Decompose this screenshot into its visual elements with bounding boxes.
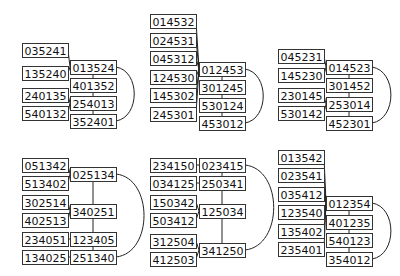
node-label: 402513	[25, 215, 67, 228]
permutation-graph-1: 0352411352402401355401320135244013522540…	[23, 44, 135, 129]
node-label: 012453	[202, 64, 244, 77]
node-label: 513402	[25, 178, 67, 191]
node-label: 250341	[202, 178, 244, 191]
node-label: 012354	[329, 198, 371, 211]
node-label: 014523	[329, 62, 371, 75]
node-label: 150342	[153, 197, 195, 210]
node-label: 014532	[153, 16, 195, 29]
node-label: 540132	[25, 108, 67, 121]
node-label: 145230	[281, 70, 323, 83]
arc-edge	[245, 165, 274, 250]
node-label: 135402	[281, 226, 323, 239]
node-label: 312504	[153, 236, 195, 249]
node-label: 145302	[153, 90, 195, 103]
node-label: 254013	[73, 98, 115, 111]
node-label: 035412	[281, 189, 323, 202]
node-label: 023415	[202, 160, 244, 173]
node-label: 401235	[329, 217, 371, 230]
arc-edge	[372, 203, 391, 259]
node-label: 234051	[25, 234, 67, 247]
permutation-graph-5: 2341500341251503425034123125044125030234…	[151, 159, 274, 267]
node-label: 452301	[329, 118, 371, 131]
node-label: 035241	[25, 45, 67, 58]
node-label: 230145	[281, 90, 323, 103]
node-label: 530124	[202, 100, 244, 113]
node-label: 540123	[329, 235, 371, 248]
node-label: 401352	[73, 80, 115, 93]
node-label: 503412	[153, 215, 195, 228]
node-label: 134025	[25, 252, 67, 265]
node-label: 034125	[153, 178, 195, 191]
node-label: 251340	[73, 252, 115, 265]
node-label: 123540	[281, 207, 323, 220]
graph-figure: 0352411352402401355401320135244013522540…	[0, 0, 400, 276]
arc-edge	[116, 174, 144, 257]
permutation-graph-4: 0513425134023025144025132340511340250251…	[23, 159, 145, 265]
node-label: 340251	[73, 206, 115, 219]
node-label: 245301	[153, 109, 195, 122]
arc-edge	[372, 67, 391, 123]
node-label: 240135	[25, 90, 67, 103]
node-label: 135240	[25, 68, 67, 81]
node-label: 045231	[281, 51, 323, 64]
node-label: 013524	[73, 62, 115, 75]
diagram-canvas: 0352411352402401355401320135244013522540…	[0, 0, 400, 276]
permutation-graph-2: 0145320245310453121245301453022453010124…	[151, 15, 264, 131]
node-label: 412503	[153, 254, 195, 267]
arc-edge	[116, 67, 134, 121]
node-label: 354012	[329, 254, 371, 267]
node-label: 013542	[281, 152, 323, 165]
node-label: 341250	[202, 245, 244, 258]
node-label: 253014	[329, 99, 371, 112]
node-label: 302514	[25, 197, 67, 210]
node-label: 045312	[153, 53, 195, 66]
node-label: 024531	[153, 35, 195, 48]
node-label: 023541	[281, 170, 323, 183]
node-label: 301452	[329, 80, 371, 93]
arc-edge	[245, 69, 263, 123]
node-label: 235401	[281, 244, 323, 257]
node-label: 025134	[73, 169, 115, 182]
node-label: 123405	[73, 234, 115, 247]
node-label: 051342	[25, 160, 67, 173]
node-label: 530142	[281, 108, 323, 121]
permutation-graph-3: 0452311452302301455301420145233014522530…	[279, 50, 391, 131]
node-label: 352401	[73, 116, 115, 129]
permutation-graph-6: 0135420235410354121235401354022354010123…	[279, 151, 391, 267]
node-label: 453012	[202, 118, 244, 131]
node-label: 125034	[202, 206, 244, 219]
node-label: 124530	[153, 72, 195, 85]
node-label: 234150	[153, 160, 195, 173]
node-label: 301245	[202, 82, 244, 95]
